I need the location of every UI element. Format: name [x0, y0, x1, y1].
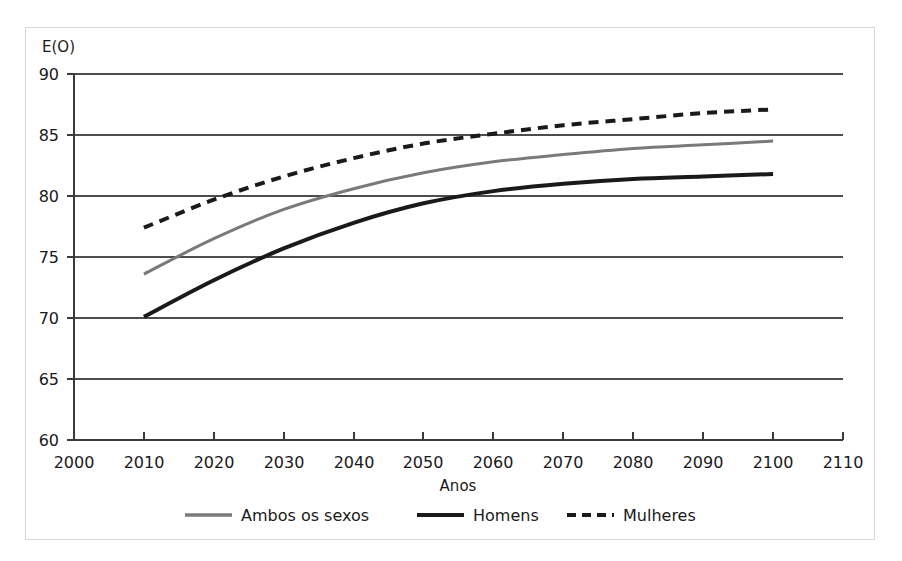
x-tick-label-2020: 2020 [194, 453, 235, 472]
x-tick-label-2080: 2080 [613, 453, 654, 472]
x-tick-label-2030: 2030 [264, 453, 305, 472]
line-chart-canvas: E(O) 90 85 80 75 70 65 60 2000 2010 2020… [0, 0, 902, 561]
chart-figure: E(O) 90 85 80 75 70 65 60 2000 2010 2020… [0, 0, 902, 561]
x-tick-label-2060: 2060 [473, 453, 514, 472]
x-tick-label-2110: 2110 [823, 453, 864, 472]
legend-label-homens: Homens [473, 506, 539, 525]
y-tick-label-75: 75 [39, 248, 59, 267]
y-tick-label-80: 80 [39, 187, 59, 206]
x-axis-ticks [74, 432, 843, 440]
series-line-ambos-os-sexos [144, 141, 773, 274]
y-tick-label-85: 85 [39, 126, 59, 145]
x-axis-title: Anos [440, 477, 477, 495]
x-tick-label-2040: 2040 [334, 453, 375, 472]
y-tick-label-70: 70 [39, 309, 59, 328]
y-tick-label-60: 60 [39, 431, 59, 450]
gridlines [74, 74, 843, 379]
chart-legend: Ambos os sexos Homens Mulheres [185, 506, 696, 525]
legend-label-ambos-os-sexos: Ambos os sexos [241, 506, 369, 525]
x-tick-label-2100: 2100 [753, 453, 794, 472]
y-tick-label-90: 90 [39, 65, 59, 84]
legend-label-mulheres: Mulheres [623, 506, 696, 525]
x-tick-label-2050: 2050 [403, 453, 444, 472]
x-tick-label-2070: 2070 [543, 453, 584, 472]
legend-item-ambos-os-sexos[interactable]: Ambos os sexos [185, 506, 369, 525]
data-series-group [144, 109, 773, 316]
x-tick-label-2090: 2090 [683, 453, 724, 472]
series-line-mulheres [144, 109, 773, 227]
y-axis-title: E(O) [42, 38, 75, 56]
legend-item-homens[interactable]: Homens [417, 506, 539, 525]
legend-item-mulheres[interactable]: Mulheres [567, 506, 696, 525]
y-tick-label-65: 65 [39, 370, 59, 389]
y-axis-ticks [67, 74, 74, 440]
x-tick-label-2010: 2010 [124, 453, 165, 472]
x-tick-label-2000: 2000 [54, 453, 95, 472]
